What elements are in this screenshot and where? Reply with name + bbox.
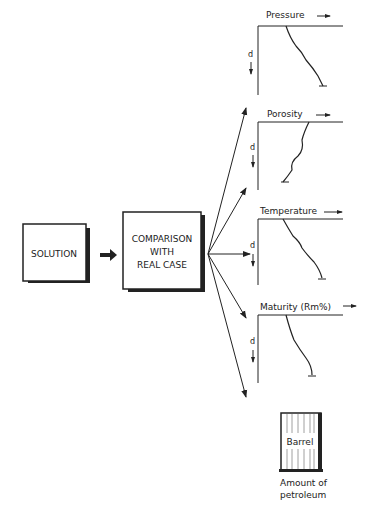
arrow-to-barrel <box>208 254 246 397</box>
barrel-caption-1: Amount of <box>280 478 328 488</box>
plot-pressure: Pressure d <box>248 10 343 95</box>
svg-text:Pressure: Pressure <box>266 10 305 20</box>
svg-text:d: d <box>250 241 255 250</box>
comparison-line-3: REAL CASE <box>137 260 187 270</box>
svg-text:d: d <box>250 143 255 152</box>
comparison-line-2: WITH <box>150 247 174 257</box>
solution-label: SOLUTION <box>31 249 77 259</box>
plot-maturity: Maturity (Rm%) d <box>250 302 356 383</box>
arrow-to-pressure <box>208 108 246 254</box>
svg-text:Temperature: Temperature <box>259 206 317 216</box>
plot-porosity: Porosity d <box>250 109 343 190</box>
plot-temperature: Temperature d <box>250 206 343 285</box>
fan-arrows <box>208 108 250 397</box>
arrow-to-porosity <box>208 188 246 254</box>
svg-text:d: d <box>250 337 255 346</box>
svg-text:Maturity (Rm%): Maturity (Rm%) <box>260 302 331 312</box>
diagram: SOLUTION COMPARISON WITH REAL CASE Press… <box>0 0 371 515</box>
arrow-to-maturity <box>208 254 246 318</box>
barrel-caption-2: petroleum <box>280 490 326 500</box>
svg-text:d: d <box>248 50 253 59</box>
comparison-line-1: COMPARISON <box>132 234 193 244</box>
barrel-icon: Barrel <box>279 413 323 472</box>
svg-text:Porosity: Porosity <box>267 109 303 119</box>
comparison-box: COMPARISON WITH REAL CASE <box>123 212 205 292</box>
barrel-label: Barrel <box>287 437 314 447</box>
solution-box: SOLUTION <box>23 224 90 283</box>
